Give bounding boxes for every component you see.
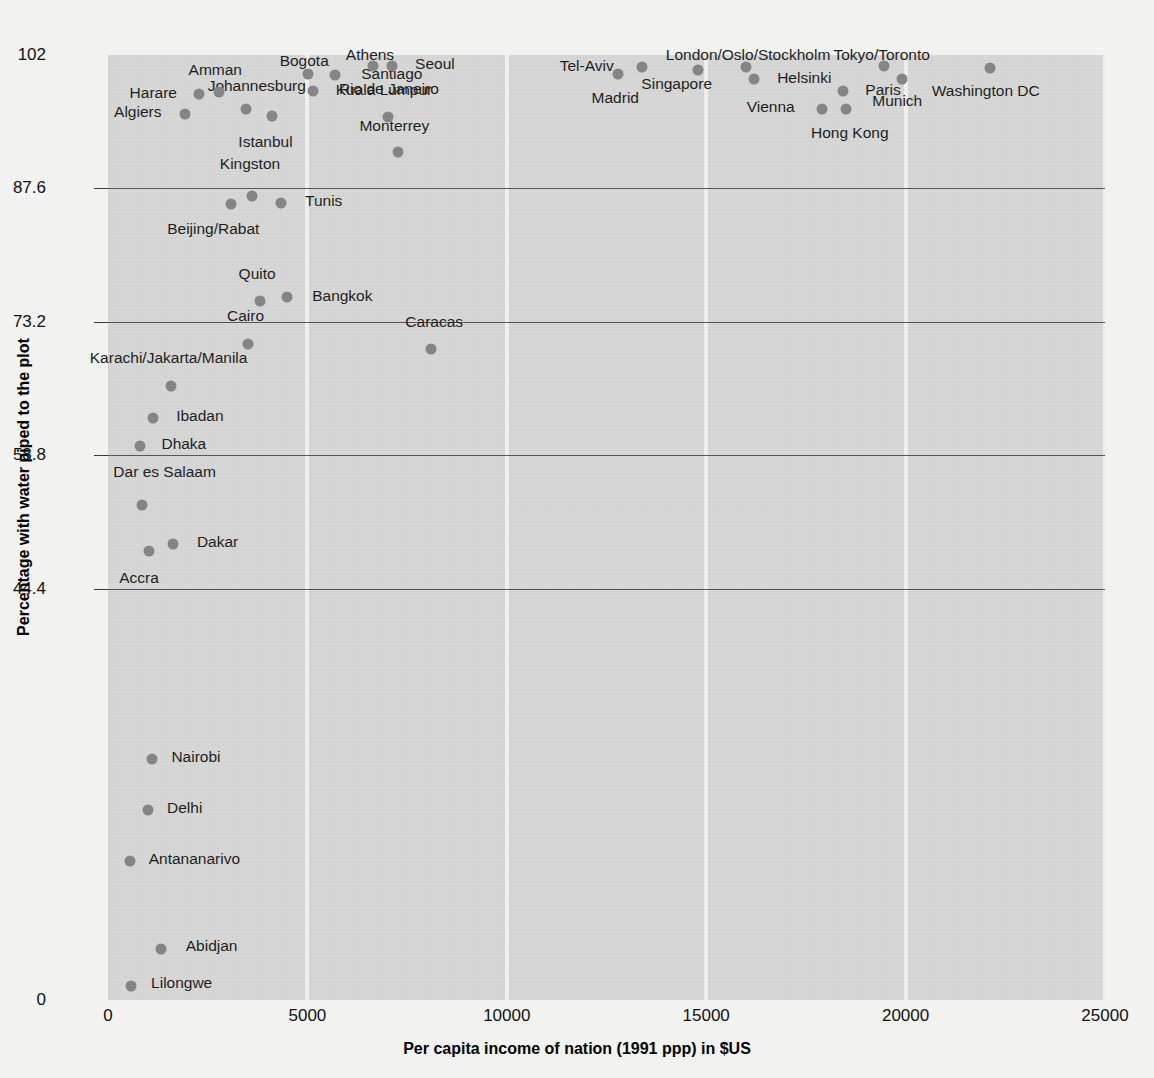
y-tick-label: 102 <box>18 45 46 65</box>
data-point <box>142 805 153 816</box>
vertical-gridline <box>505 55 509 1000</box>
data-point <box>126 981 137 992</box>
data-point-label: Bogota <box>280 52 329 70</box>
data-point <box>241 103 252 114</box>
data-point <box>613 69 624 80</box>
data-point <box>837 86 848 97</box>
y-tick-mark <box>94 455 108 456</box>
data-point-label: Delhi <box>167 799 202 817</box>
y-axis-title: Percentage with water piped to the plot <box>15 257 33 717</box>
data-point <box>749 74 760 85</box>
data-point-label: Nairobi <box>171 748 220 766</box>
data-point <box>226 199 237 210</box>
x-tick-label: 10000 <box>483 1006 530 1026</box>
x-tick-label: 25000 <box>1081 1006 1128 1026</box>
data-point-label: Abidjan <box>186 937 238 955</box>
data-point <box>693 64 704 75</box>
x-axis-title: Per capita income of nation (1991 ppp) i… <box>0 1040 1154 1058</box>
data-point-label: Algiers <box>114 103 161 121</box>
data-point <box>124 856 135 867</box>
data-point <box>426 343 437 354</box>
data-point-label: Dakar <box>197 533 238 551</box>
data-point <box>247 190 258 201</box>
data-point <box>276 198 287 209</box>
data-point <box>194 88 205 99</box>
data-point <box>136 500 147 511</box>
x-tick-label: 0 <box>103 1006 112 1026</box>
data-point-label: Munich <box>872 92 922 110</box>
data-point-label: Accra <box>119 569 159 587</box>
vertical-gridline <box>904 55 908 1000</box>
data-point-label: Istanbul <box>238 133 292 151</box>
data-point-label: Kingston <box>220 155 280 173</box>
data-point-label: Tel-Aviv <box>560 57 614 75</box>
data-point <box>637 62 648 73</box>
data-point-label: Dhaka <box>161 435 206 453</box>
horizontal-gridline <box>108 455 1105 456</box>
horizontal-gridline <box>108 188 1105 189</box>
vertical-gridline <box>1103 55 1107 1000</box>
data-point-label: Lilongwe <box>151 974 212 992</box>
data-point-label: Harare <box>130 84 177 102</box>
data-point <box>307 86 318 97</box>
scatter-chart: LilongweAbidjanAntananarivoDelhiNairobiA… <box>0 0 1154 1078</box>
data-point-label: Bangkok <box>312 287 372 305</box>
vertical-gridline <box>704 55 708 1000</box>
data-point-label: Seoul <box>415 55 455 73</box>
data-point <box>144 545 155 556</box>
data-point-label: Hong Kong <box>811 124 889 142</box>
data-point-label: Washington DC <box>932 82 1040 100</box>
data-point <box>382 112 393 123</box>
y-tick-label: 87.6 <box>13 178 46 198</box>
data-point <box>840 103 851 114</box>
data-point-label: London/Oslo/Stockholm <box>666 46 831 64</box>
y-tick-mark <box>94 188 108 189</box>
y-tick-mark <box>94 322 108 323</box>
data-point-label: Madrid <box>592 89 639 107</box>
data-point <box>243 339 254 350</box>
data-point-label: Caracas <box>405 313 463 331</box>
x-tick-label: 20000 <box>882 1006 929 1026</box>
data-point <box>166 380 177 391</box>
x-tick-label: 5000 <box>288 1006 326 1026</box>
data-point <box>254 295 265 306</box>
data-point <box>266 111 277 122</box>
data-point <box>896 74 907 85</box>
data-point-label: Vienna <box>747 98 795 116</box>
data-point <box>148 413 159 424</box>
data-point <box>167 539 178 550</box>
y-tick-mark <box>94 589 108 590</box>
data-point <box>179 109 190 120</box>
data-point <box>146 754 157 765</box>
data-point-label: Tokyo/Toronto <box>833 46 930 64</box>
data-point-label: Antananarivo <box>149 850 240 868</box>
data-point-label: Dar es Salaam <box>113 463 216 481</box>
data-point <box>155 944 166 955</box>
horizontal-gridline <box>108 589 1105 590</box>
y-tick-label: 0 <box>37 990 46 1010</box>
data-point <box>214 87 225 98</box>
data-point-label: Singapore <box>641 75 712 93</box>
data-point-label: Helsinki <box>777 69 831 87</box>
data-point <box>816 103 827 114</box>
data-point <box>393 147 404 158</box>
data-point-label: Monterrey <box>359 117 429 135</box>
data-point <box>386 61 397 72</box>
data-point-label: Beijing/Rabat <box>167 220 259 238</box>
data-point-label: Tunis <box>305 192 342 210</box>
data-point-label: Quito <box>239 265 276 283</box>
data-point <box>134 440 145 451</box>
data-point-label: Cairo <box>227 307 264 325</box>
plot-area: LilongweAbidjanAntananarivoDelhiNairobiA… <box>108 55 1105 1000</box>
data-point <box>985 62 996 73</box>
data-point-label: Karachi/Jakarta/Manila <box>90 349 248 367</box>
data-point-label: Ibadan <box>176 407 223 425</box>
x-tick-label: 15000 <box>683 1006 730 1026</box>
data-point-label: Amman <box>189 61 242 79</box>
data-point <box>330 70 341 81</box>
data-point <box>302 68 313 79</box>
data-point <box>281 291 292 302</box>
